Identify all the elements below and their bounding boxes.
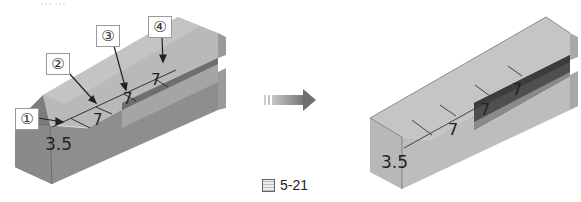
dimension-depth: 3.5 bbox=[381, 152, 408, 172]
figure-5-21: …… bbox=[0, 0, 581, 202]
dimension-spacing: 7 bbox=[448, 120, 458, 139]
dimension-spacing: 7 bbox=[512, 80, 522, 99]
figure-caption: 5-21 bbox=[262, 177, 308, 193]
block-after-slot bbox=[0, 0, 581, 202]
figure-number: 5-21 bbox=[280, 177, 308, 193]
figure-label-glyph bbox=[262, 179, 275, 192]
dimension-spacing: 7 bbox=[480, 100, 490, 119]
